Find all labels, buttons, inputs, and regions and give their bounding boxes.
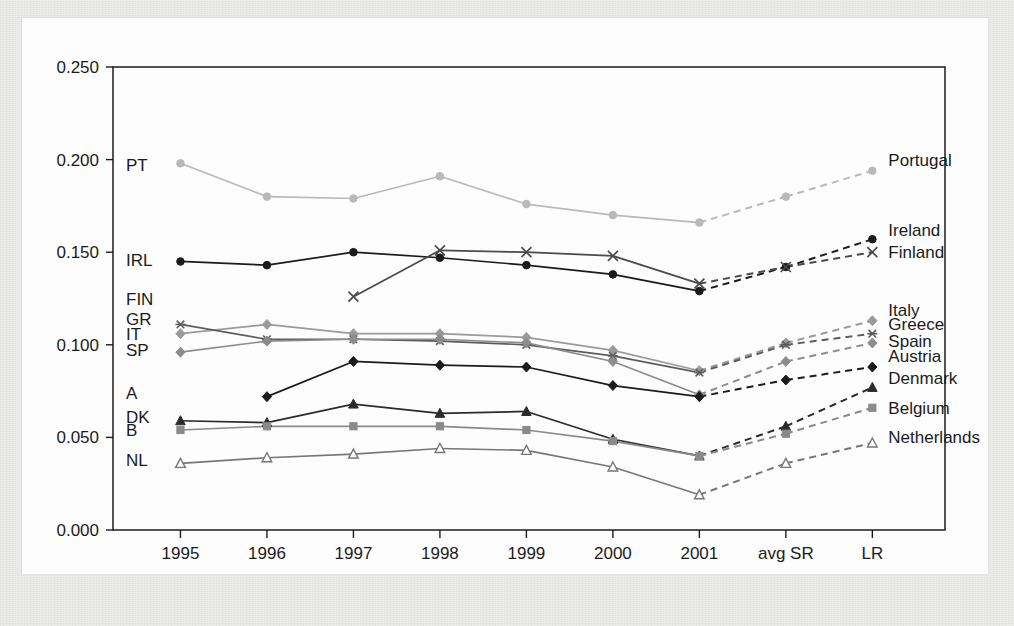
series-segment-irl (613, 274, 699, 291)
series-segment-b (613, 441, 699, 456)
y-tick-label: 0.250 (56, 58, 99, 77)
x-tick-label: 1997 (335, 544, 373, 563)
data-point-marker (523, 261, 531, 269)
series-segment-gr (699, 345, 785, 373)
series-segment-fin (613, 256, 699, 284)
left-series-labels: PTIRLFINGRITSPADKBNL (126, 156, 153, 469)
x-tick-label: 1998 (421, 544, 459, 563)
right-label-portugal: Portugal (888, 151, 951, 170)
series-segment-a (526, 367, 612, 386)
data-point-marker (609, 211, 617, 219)
series-segment-b (440, 426, 526, 430)
series-segment-nl (526, 450, 612, 467)
data-point-marker (436, 423, 443, 430)
data-point-marker (177, 258, 185, 266)
data-point-marker (696, 452, 703, 459)
data-point-marker (696, 219, 704, 227)
y-tick-label: 0.150 (56, 243, 99, 262)
right-label-netherlands: Netherlands (888, 428, 980, 447)
series-segment-it (613, 350, 699, 370)
series-segment-gr (613, 356, 699, 373)
series-segment-irl (526, 265, 612, 274)
series-segment-a (440, 365, 526, 367)
chart-canvas: 0.0000.0500.1000.1500.2000.250 199519961… (0, 0, 1014, 626)
right-label-austria: Austria (888, 347, 941, 366)
series-segment-pt (526, 204, 612, 215)
series-segment-nl (613, 467, 699, 495)
series-segment-irl (786, 239, 872, 267)
data-point-marker (350, 195, 358, 203)
data-point-marker (869, 167, 877, 175)
x-axis-ticks: 1995199619971998199920002001avg SRLR (162, 530, 884, 563)
series-segment-dk (267, 404, 353, 423)
series-segment-a (353, 361, 439, 365)
data-point-marker (609, 438, 616, 445)
series-segment-irl (699, 267, 785, 291)
series-segment-b (699, 434, 785, 456)
series-segment-dk (440, 411, 526, 413)
data-point-marker (263, 193, 271, 201)
series-segment-it (440, 334, 526, 338)
data-point-marker (609, 271, 617, 279)
right-label-denmark: Denmark (888, 369, 957, 388)
data-point-marker (262, 336, 271, 346)
line-chart: 0.0000.0500.1000.1500.2000.250 199519961… (0, 0, 1014, 626)
right-label-ireland: Ireland (888, 221, 940, 240)
data-point-marker (781, 375, 790, 385)
right-label-belgium: Belgium (888, 399, 949, 418)
series-segment-dk (180, 421, 266, 423)
data-point-marker (782, 430, 789, 437)
data-point-marker (868, 338, 877, 348)
series-segment-sp (526, 343, 612, 362)
left-label-b: B (126, 421, 137, 440)
series-segment-it (786, 321, 872, 343)
data-point-marker (176, 329, 185, 339)
data-point-marker (696, 287, 704, 295)
x-tick-label: avg SR (758, 544, 814, 563)
x-tick-label: 2000 (594, 544, 632, 563)
data-point-marker (868, 438, 878, 447)
series-segment-nl (440, 449, 526, 451)
series-segment-pt (613, 215, 699, 222)
series-segment-pt (180, 163, 266, 196)
left-label-nl: NL (126, 451, 148, 470)
data-point-marker (177, 160, 185, 168)
data-point-marker (436, 172, 444, 180)
series-segment-fin (440, 250, 526, 252)
data-point-marker (781, 356, 790, 366)
series-segment-it (526, 337, 612, 350)
series-segment-irl (440, 258, 526, 265)
series-segment-nl (180, 458, 266, 464)
series-segment-dk (786, 387, 872, 426)
series-segment-nl (786, 443, 872, 463)
series-segment-pt (353, 176, 439, 198)
right-label-finland: Finland (888, 243, 944, 262)
left-label-fin: FIN (126, 290, 153, 309)
data-point-marker (782, 193, 790, 201)
series-segment-it (267, 324, 353, 333)
data-point-marker (868, 382, 878, 391)
left-label-pt: PT (126, 156, 148, 175)
series-segment-nl (267, 454, 353, 458)
series-segment-pt (440, 176, 526, 204)
series-segment-fin (353, 250, 439, 296)
plot-area-border (113, 67, 945, 530)
y-tick-label: 0.000 (56, 521, 99, 540)
left-label-sp: SP (126, 341, 149, 360)
data-point-marker (349, 399, 359, 408)
series-segment-irl (180, 261, 266, 265)
screenshot-page: 0.0000.0500.1000.1500.2000.250 199519961… (0, 0, 1014, 626)
series-segment-sp (180, 341, 266, 352)
data-point-marker (349, 356, 358, 366)
series-segment-sp (786, 343, 872, 362)
data-point-marker (608, 356, 617, 366)
series-segment-b (180, 426, 266, 430)
data-point-marker (262, 319, 271, 329)
x-tick-label: 1996 (248, 544, 286, 563)
series-segment-nl (699, 463, 785, 494)
data-point-marker (695, 366, 704, 376)
data-point-marker (867, 330, 877, 338)
data-point-marker (348, 292, 358, 302)
x-tick-label: 1995 (162, 544, 200, 563)
y-axis-ticks: 0.0000.0500.1000.1500.2000.250 (56, 58, 113, 540)
